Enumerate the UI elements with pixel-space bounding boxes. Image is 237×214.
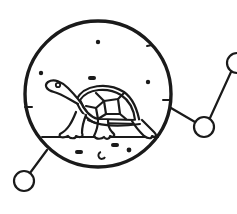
star-icon bbox=[96, 40, 100, 44]
turtle-network-illustration bbox=[0, 0, 237, 214]
pebble-icon bbox=[111, 143, 119, 147]
node-right-middle-icon bbox=[194, 117, 214, 137]
dash-icon bbox=[88, 76, 96, 80]
star-icon bbox=[39, 71, 43, 75]
pebble-icon bbox=[75, 150, 83, 154]
node-top-right-icon bbox=[227, 53, 237, 73]
node-bottom-left-icon bbox=[14, 171, 34, 191]
pebble-icon bbox=[127, 148, 132, 153]
illustration-canvas bbox=[0, 0, 237, 214]
star-icon bbox=[146, 80, 150, 84]
